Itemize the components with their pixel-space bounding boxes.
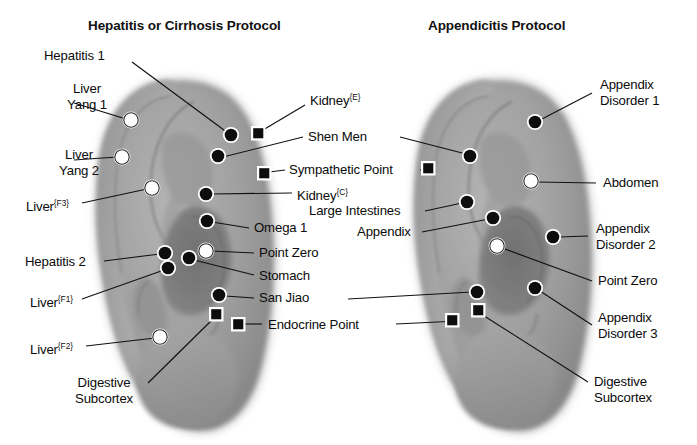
point-hepatitis-2[interactable]: [157, 245, 173, 261]
label-liver-f1-sup: {F1}: [58, 294, 73, 304]
label-shen-men-text: Shen Men: [308, 129, 367, 144]
label-liver-f3-text: Liver: [26, 199, 54, 214]
label-liver-f2-sup: {F2}: [58, 341, 73, 351]
label-appendix-disorder-2-line2: Disorder 2: [596, 237, 655, 253]
label-point-zero-left-text: Point Zero: [259, 245, 318, 260]
label-endocrine-point: Endocrine Point: [268, 317, 359, 333]
label-digestive-subcortex-right: Digestive Subcortex: [594, 374, 652, 405]
point-large-intestines[interactable]: [459, 194, 475, 210]
point-appendix[interactable]: [485, 210, 501, 226]
label-appendix-disorder-3-line1: Appendix: [598, 310, 652, 325]
label-liver-yang-1-line2: Yang 1: [57, 97, 117, 113]
ear-image-right: [415, 80, 592, 430]
label-liver-yang-1: Liver Yang 1: [57, 81, 117, 112]
label-point-zero-right: Point Zero: [598, 273, 657, 289]
label-san-jiao-text: San Jiao: [259, 290, 309, 305]
point-shen-men-left[interactable]: [210, 148, 226, 164]
label-liver-yang-1-line1: Liver: [73, 81, 101, 96]
label-hepatitis-2: Hepatitis 2: [25, 254, 86, 270]
label-appendix-disorder-1: Appendix Disorder 1: [600, 77, 659, 108]
label-digestive-subcortex-right-line2: Subcortex: [594, 390, 652, 406]
label-liver-yang-2: Liver Yang 2: [49, 147, 109, 178]
label-appendix-disorder-1-line2: Disorder 1: [600, 93, 659, 109]
panel-title-right: Appendicitis Protocol: [428, 18, 565, 33]
label-appendix: Appendix: [357, 224, 411, 240]
label-hepatitis-1-text: Hepatitis 1: [44, 48, 105, 63]
label-san-jiao: San Jiao: [259, 290, 309, 306]
panel-title-left: Hepatitis or Cirrhosis Protocol: [88, 18, 281, 33]
label-omega-1: Omega 1: [254, 220, 307, 236]
label-kidney-e-sup: {E}: [349, 92, 360, 102]
label-kidney-e: Kidney{E}: [310, 90, 361, 109]
point-hepatitis-1[interactable]: [223, 127, 239, 143]
label-shen-men: Shen Men: [308, 129, 367, 145]
point-liver-f2[interactable]: [152, 329, 167, 344]
point-san-jiao-left[interactable]: [211, 287, 227, 303]
point-sympathetic-point-right[interactable]: [421, 161, 436, 176]
point-liver-f3[interactable]: [144, 180, 159, 195]
label-liver-f1-text: Liver: [30, 295, 58, 310]
label-point-zero-left: Point Zero: [259, 245, 318, 261]
label-liver-f2-text: Liver: [30, 342, 58, 357]
label-appendix-disorder-3-line2: Disorder 3: [598, 326, 657, 342]
label-kidney-c-text: Kidney: [297, 188, 336, 203]
point-appendix-disorder-2[interactable]: [545, 229, 561, 245]
label-stomach-text: Stomach: [259, 268, 310, 283]
label-liver-f1: Liver{F1}: [30, 292, 73, 311]
label-appendix-disorder-2: Appendix Disorder 2: [596, 221, 655, 252]
label-stomach: Stomach: [259, 268, 310, 284]
point-digestive-subcortex-left[interactable]: [209, 307, 224, 322]
point-appendix-disorder-1[interactable]: [527, 114, 543, 130]
point-omega-1[interactable]: [199, 213, 215, 229]
label-omega-1-text: Omega 1: [254, 220, 307, 235]
label-kidney-c: Kidney{C}: [297, 185, 348, 204]
figure-canvas: Hepatitis or Cirrhosis Protocol Appendic…: [0, 0, 697, 445]
point-liver-f1[interactable]: [160, 260, 176, 276]
point-liver-yang-2[interactable]: [114, 149, 129, 164]
label-digestive-subcortex-left-line1: Digestive: [78, 375, 131, 390]
point-abdomen[interactable]: [523, 173, 538, 188]
label-kidney-c-sup: {C}: [336, 187, 348, 197]
label-large-intestines-text: Large Intestines: [309, 203, 400, 218]
point-appendix-disorder-3[interactable]: [527, 280, 543, 296]
point-kidney-e-left[interactable]: [251, 126, 266, 141]
label-hepatitis-2-text: Hepatitis 2: [25, 254, 86, 269]
point-kidney-c-left[interactable]: [198, 186, 214, 202]
point-stomach[interactable]: [181, 250, 197, 266]
point-san-jiao-right[interactable]: [469, 284, 485, 300]
label-appendix-text: Appendix: [357, 224, 411, 239]
label-digestive-subcortex-left-line2: Subcortex: [60, 391, 148, 407]
label-kidney-e-text: Kidney: [310, 93, 349, 108]
point-digestive-subcortex-right[interactable]: [471, 303, 486, 318]
leader-kidney-e: [263, 105, 305, 130]
label-sympathetic-point-text: Sympathetic Point: [289, 162, 393, 177]
label-point-zero-right-text: Point Zero: [598, 273, 657, 288]
label-appendix-disorder-1-line1: Appendix: [600, 77, 654, 92]
point-sympathetic-point-left[interactable]: [257, 166, 272, 181]
point-shen-men-right[interactable]: [462, 148, 478, 164]
point-point-zero-right[interactable]: [489, 238, 504, 253]
label-endocrine-point-text: Endocrine Point: [268, 317, 359, 332]
label-liver-f2: Liver{F2}: [30, 339, 73, 358]
label-appendix-disorder-2-line1: Appendix: [596, 221, 650, 236]
label-liver-yang-2-line1: Liver: [65, 147, 93, 162]
point-liver-yang-1[interactable]: [123, 112, 138, 127]
label-large-intestines: Large Intestines: [309, 203, 400, 219]
label-appendix-disorder-3: Appendix Disorder 3: [598, 310, 657, 341]
label-abdomen-text: Abdomen: [603, 175, 658, 190]
label-digestive-subcortex-left: Digestive Subcortex: [60, 375, 148, 406]
point-endocrine-point-left[interactable]: [231, 317, 246, 332]
point-point-zero-left[interactable]: [198, 243, 213, 258]
label-liver-f3-sup: {F3}: [54, 198, 69, 208]
label-digestive-subcortex-right-line1: Digestive: [594, 374, 647, 389]
label-abdomen: Abdomen: [603, 175, 658, 191]
label-hepatitis-1: Hepatitis 1: [44, 48, 105, 64]
label-liver-f3: Liver{F3}: [26, 196, 69, 215]
label-sympathetic-point: Sympathetic Point: [289, 162, 393, 178]
point-endocrine-point-right[interactable]: [445, 313, 460, 328]
label-liver-yang-2-line2: Yang 2: [49, 163, 109, 179]
